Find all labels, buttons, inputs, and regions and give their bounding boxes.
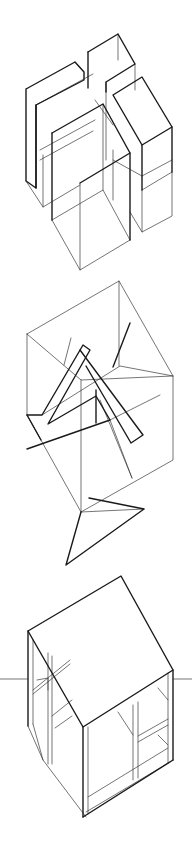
sketch-line-thin	[142, 160, 172, 176]
sketch-line-thin	[27, 281, 173, 512]
open-frame-pavilion-sketch	[0, 576, 192, 817]
sketch-line-thick	[113, 77, 172, 145]
sketch-line-thick	[80, 350, 143, 443]
sketch-line-thick	[52, 104, 130, 240]
sketch-line-thick	[88, 34, 135, 92]
sketch-line-thin	[64, 338, 71, 365]
sketch-line-thick	[27, 345, 110, 449]
sketch-line-thin	[28, 726, 86, 817]
sketch-line-thick	[80, 153, 130, 183]
sketch-line-thin	[42, 366, 173, 415]
sketch-line-thin	[88, 748, 168, 797]
cube-with-folded-plane-sketch	[27, 281, 173, 565]
sketch-line-thick	[113, 323, 130, 367]
sketch-line-thick	[26, 62, 84, 188]
sketch-line-thick	[28, 576, 173, 727]
stacked-boxes-cluster-sketch	[26, 34, 172, 270]
sketch-line-thin	[158, 735, 168, 745]
isometric-sketches-canvas	[0, 0, 192, 862]
sketch-line-thin	[37, 678, 48, 690]
sketch-line-thin	[118, 712, 133, 735]
sketch-line-thin	[33, 724, 43, 760]
sketch-line-thin	[142, 172, 172, 190]
sketch-line-thin	[95, 100, 113, 125]
sketch-line-thick	[83, 760, 173, 817]
sketch-line-thin	[52, 190, 130, 240]
sketch-line-thin	[33, 664, 70, 694]
sketch-line-thin	[33, 660, 70, 690]
sketch-line-thick	[27, 415, 41, 440]
sketch-line-thin	[110, 395, 160, 420]
sketch-line-thin	[27, 334, 173, 380]
sketch-line-thin	[110, 420, 132, 478]
sketch-line-thin	[52, 220, 130, 270]
sketch-line-thin	[81, 509, 144, 512]
sketch-line-thin	[55, 716, 72, 728]
sketch-line-thin	[26, 181, 80, 207]
sketch-line-thin	[130, 212, 142, 232]
sketch-line-thick	[66, 498, 144, 565]
sketch-line-thin	[158, 688, 168, 700]
sketch-line-thin	[113, 160, 142, 176]
